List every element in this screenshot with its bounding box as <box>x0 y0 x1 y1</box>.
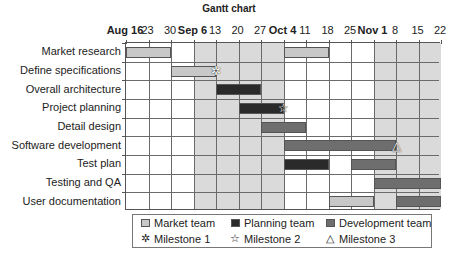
x-tick-label: 20 <box>231 24 243 36</box>
task-label: Detail design <box>57 120 121 132</box>
task-bar-development <box>396 196 441 207</box>
gantt-plot-area: ✲☆△ <box>125 42 440 210</box>
legend-item-market-team: Market team <box>141 217 215 229</box>
x-tick-label: Nov 1 <box>358 24 388 36</box>
task-bar-market <box>126 47 171 58</box>
x-tick-label: 11 <box>299 24 310 36</box>
y-tick <box>122 155 126 156</box>
x-tick <box>329 40 330 44</box>
x-tick-label: Aug 16 <box>107 24 144 36</box>
x-tick-label: 15 <box>411 24 423 36</box>
x-tick <box>171 40 172 44</box>
task-bar-development <box>351 159 396 170</box>
x-tick <box>261 40 262 44</box>
grid-line-vertical <box>306 43 307 209</box>
task-bar-market <box>284 47 329 58</box>
y-tick <box>122 118 126 119</box>
task-label: User documentation <box>23 195 121 207</box>
legend-item-development-team: Development team <box>326 217 431 229</box>
grid-line-horizontal <box>126 99 439 100</box>
x-tick-label: 25 <box>344 24 356 36</box>
milestone-1-cross-icon: ✲ <box>139 232 151 245</box>
x-tick-label: 23 <box>141 24 153 36</box>
y-tick <box>122 62 126 63</box>
x-tick <box>441 40 442 44</box>
x-tick <box>419 40 420 44</box>
milestone-3-icon: △ <box>392 140 401 152</box>
x-tick <box>396 40 397 44</box>
grid-line-horizontal <box>126 62 439 63</box>
legend-item-milestone-2: ☆ Milestone 2 <box>229 232 300 245</box>
x-tick <box>126 40 127 44</box>
grid-line-vertical <box>351 43 352 209</box>
x-tick <box>306 40 307 44</box>
grid-line-horizontal <box>126 80 439 81</box>
x-tick-label: 13 <box>209 24 221 36</box>
grid-line-horizontal <box>126 136 439 137</box>
x-tick <box>194 40 195 44</box>
task-bar-development <box>284 140 397 151</box>
market-team-swatch-icon <box>141 219 150 227</box>
grid-line-horizontal <box>126 174 439 175</box>
y-tick <box>122 43 126 44</box>
x-tick-label: 27 <box>254 24 266 36</box>
y-tick <box>122 174 126 175</box>
development-team-swatch-icon <box>326 219 335 227</box>
legend-label: Planning team <box>244 217 314 229</box>
x-tick <box>374 40 375 44</box>
y-tick <box>122 192 126 193</box>
task-bar-planning <box>216 84 261 95</box>
task-bar-market <box>171 66 216 77</box>
legend-label: Development team <box>339 217 431 229</box>
task-bar-development <box>374 178 442 189</box>
y-tick <box>122 80 126 81</box>
x-tick-label: Sep 6 <box>178 24 207 36</box>
milestone-2-icon: ☆ <box>278 102 289 114</box>
task-label: Test plan <box>77 157 121 169</box>
task-label: Define specifications <box>20 64 121 76</box>
x-tick <box>284 40 285 44</box>
x-tick-label: 8 <box>392 24 398 36</box>
task-label: Market research <box>42 45 121 57</box>
legend-item-milestone-1: ✲ Milestone 1 <box>139 232 210 245</box>
x-tick-label: 18 <box>321 24 333 36</box>
task-bar-planning <box>239 103 284 114</box>
x-tick <box>239 40 240 44</box>
legend: Market team Planning team Development te… <box>132 214 432 248</box>
y-tick <box>122 99 126 100</box>
milestone-2-star-icon: ☆ <box>229 232 241 245</box>
x-tick <box>216 40 217 44</box>
chart-title: Gantt chart <box>0 3 458 14</box>
y-tick <box>122 136 126 137</box>
task-label: Overall architecture <box>26 83 121 95</box>
grid-line-vertical <box>149 43 150 209</box>
task-label: Testing and QA <box>46 176 121 188</box>
legend-label: Milestone 3 <box>339 233 395 245</box>
task-label: Software development <box>12 139 121 151</box>
legend-label: Milestone 2 <box>244 233 300 245</box>
milestone-3-triangle-icon: △ <box>324 232 336 245</box>
grid-line-horizontal <box>126 192 439 193</box>
task-label: Project planning <box>42 101 121 113</box>
grid-line-vertical <box>239 43 240 209</box>
task-bar-development <box>261 122 306 133</box>
x-tick-label: Oct 4 <box>269 24 297 36</box>
legend-label: Milestone 1 <box>154 233 210 245</box>
x-tick-label: 30 <box>164 24 176 36</box>
grid-line-horizontal <box>126 118 439 119</box>
x-tick-label: 22 <box>434 24 446 36</box>
grid-line-horizontal <box>126 155 439 156</box>
legend-item-milestone-3: △ Milestone 3 <box>324 232 395 245</box>
task-bar-planning <box>284 159 329 170</box>
legend-item-planning-team: Planning team <box>231 217 314 229</box>
x-tick <box>351 40 352 44</box>
grid-line-vertical <box>329 43 330 209</box>
x-tick <box>149 40 150 44</box>
legend-label: Market team <box>154 217 215 229</box>
task-bar-market <box>329 196 374 207</box>
milestone-1-icon: ✲ <box>211 65 221 77</box>
planning-team-swatch-icon <box>231 219 240 227</box>
